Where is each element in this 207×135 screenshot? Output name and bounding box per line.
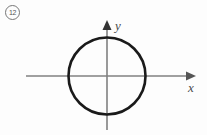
x-axis-label: x [187,80,194,95]
coordinate-plot: y x [0,0,207,135]
figure-container: 12 y x [0,0,207,135]
y-axis-arrowhead [103,20,112,30]
y-axis-label: y [113,18,121,33]
